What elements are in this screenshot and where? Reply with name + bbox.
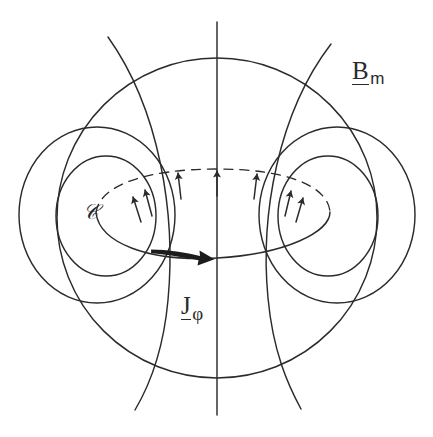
label-magnetic-field-subscript: m	[370, 70, 385, 87]
arrow-right-inner2	[285, 191, 291, 216]
arrow-left-mid	[178, 173, 181, 199]
figure-root: Bm Jφ 𝒞	[0, 0, 433, 437]
label-contour: 𝒞	[83, 200, 98, 225]
arrow-left-inner	[133, 197, 141, 222]
label-current-density-subscript: φ	[192, 304, 203, 323]
left-flux-loop-inner	[56, 156, 156, 276]
arrow-right-mid	[254, 174, 257, 199]
label-magnetic-field: Bm	[352, 58, 385, 87]
right-flux-loop-outer	[259, 127, 415, 303]
arrow-right-inner	[296, 198, 303, 222]
current-ring-back	[96, 169, 330, 213]
label-current-density: Jφ	[181, 293, 204, 323]
label-magnetic-field-symbol: B	[352, 58, 369, 85]
field-line-arc-right	[266, 44, 331, 409]
current-ring-front	[96, 212, 330, 259]
arrow-left-inner2	[145, 190, 152, 216]
right-flux-loop-inner	[278, 156, 378, 276]
label-current-density-symbol: J	[181, 293, 191, 320]
